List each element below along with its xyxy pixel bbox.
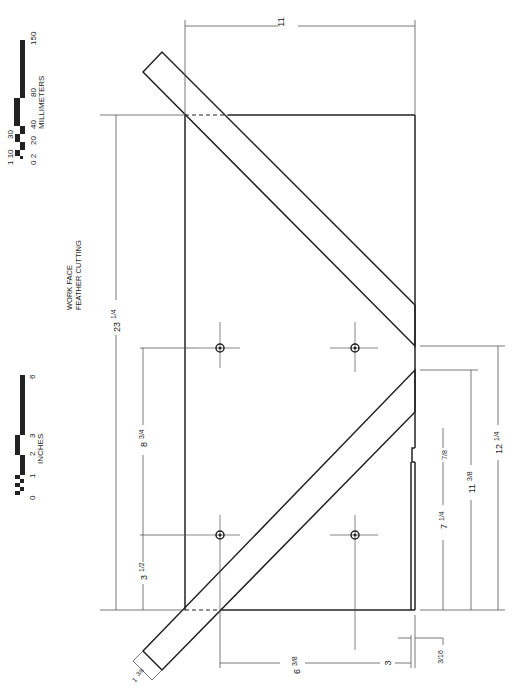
dim-lip: 3/16	[398, 615, 444, 668]
hole-bottom-right	[330, 515, 378, 650]
svg-text:6: 6	[28, 374, 37, 379]
svg-text:3/8: 3/8	[291, 656, 298, 666]
svg-text:3/8: 3/8	[466, 471, 473, 481]
svg-text:12: 12	[494, 444, 504, 454]
dim-hole-cross: 6 3/8 3	[220, 610, 411, 674]
svg-text:1/4: 1/4	[493, 431, 500, 441]
svg-text:1: 1	[28, 473, 37, 478]
upper-guide-strip	[143, 52, 415, 346]
svg-text:1/4: 1/4	[110, 309, 117, 319]
svg-text:7/8: 7/8	[441, 450, 448, 460]
svg-text:1/4: 1/4	[438, 511, 445, 521]
millimeter-scale: 0 2 20 40 80 150 MILLIMETERS 1 10 30	[6, 31, 46, 165]
dim-guide-width: 1 3/8	[130, 651, 162, 684]
svg-text:3/8: 3/8	[135, 667, 146, 678]
dim-right-side: 7/8 7 1/4 11 3/8 12 1/4	[420, 346, 505, 610]
svg-text:8: 8	[139, 442, 149, 447]
svg-text:20: 20	[29, 136, 38, 145]
drawing-label: WORK FACE FEATHER CUTTING	[65, 240, 83, 310]
svg-text:3/16: 3/16	[437, 650, 444, 664]
millimeters-label: MILLIMETERS	[37, 76, 46, 129]
svg-text:WORK FACE: WORK FACE	[65, 265, 74, 310]
mounting-holes	[185, 322, 378, 650]
hole-bottom-left	[185, 515, 240, 610]
svg-text:30: 30	[6, 130, 15, 139]
dim-overall-width: 11	[185, 17, 415, 115]
lower-guide-strip	[143, 370, 415, 670]
hole-top-left	[198, 322, 240, 368]
inches-label: INCHES	[36, 434, 45, 464]
hole-top-right	[330, 322, 378, 372]
svg-text:3/4: 3/4	[138, 429, 145, 439]
svg-text:3: 3	[139, 575, 149, 580]
svg-text:0: 0	[28, 495, 37, 500]
svg-text:23: 23	[112, 322, 122, 332]
dim-hole-spacing: 8 3/4 3 1/2	[138, 348, 198, 610]
svg-text:1/2: 1/2	[138, 562, 145, 572]
svg-text:1: 1	[131, 676, 139, 684]
inch-scale: 0 1 2 3 6 INCHES	[15, 374, 45, 500]
svg-text:11: 11	[276, 17, 286, 26]
dim-overall-length: 23 1/4	[100, 115, 185, 610]
svg-text:7: 7	[439, 524, 449, 529]
svg-text:6: 6	[292, 669, 302, 674]
technical-drawing: 0 2 20 40 80 150 MILLIMETERS 1 10 30 0 1…	[0, 0, 513, 688]
svg-text:0 2: 0 2	[29, 153, 38, 165]
svg-text:1 10: 1 10	[6, 149, 15, 165]
svg-text:3: 3	[383, 660, 393, 665]
svg-text:FEATHER CUTTING: FEATHER CUTTING	[74, 240, 83, 310]
svg-text:150: 150	[29, 31, 38, 45]
svg-text:11: 11	[467, 484, 477, 493]
